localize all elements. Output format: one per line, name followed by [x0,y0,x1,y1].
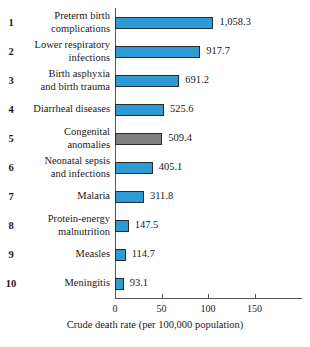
rank-number: 5 [0,124,22,153]
bar-chart: 1Preterm birthcomplications1,058.32Lower… [0,0,310,347]
category-label-line: Meningitis [64,277,110,289]
bar-track: 405.1 [115,153,310,182]
rank-number: 2 [0,37,22,66]
bar-track: 114.7 [115,240,310,269]
bar-track: 509.4 [115,124,310,153]
rank-number: 3 [0,66,22,95]
rank-number: 10 [0,269,22,298]
x-axis-tick [255,294,256,298]
bar-value-label: 147.5 [135,220,159,231]
category-label-line: and birth trauma [41,81,110,93]
x-axis-title: Crude death rate (per 100,000 population… [0,320,310,331]
chart-row: 3Birth asphyxiaand birth trauma691.2 [0,66,310,95]
category-label-line: malnutrition [58,226,110,238]
bar-value-label: 311.8 [150,191,173,202]
category-label-line: Protein-energy [48,213,110,225]
rank-number: 9 [0,240,22,269]
bar-track: 525.6 [115,95,310,124]
category-label-line: Malaria [77,190,110,202]
bar-value-label: 509.4 [168,133,192,144]
x-axis-tick [162,294,163,298]
bar [115,104,164,116]
category-label-line: infections [69,52,110,64]
x-axis-tick-label: 150 [235,304,275,314]
bar-track: 1,058.3 [115,8,310,37]
x-axis-tick-label: 50 [142,304,182,314]
x-axis-tick-label: 100 [188,304,228,314]
bar-value-label: 691.2 [185,75,209,86]
bar-value-label: 405.1 [159,162,183,173]
bar-track: 917.7 [115,37,310,66]
chart-row: 2Lower respiratoryinfections917.7 [0,37,310,66]
category-label: Diarrheal diseases [22,95,113,124]
category-label-line: Birth asphyxia [48,68,110,80]
chart-row: 1Preterm birthcomplications1,058.3 [0,8,310,37]
category-label-line: Preterm birth [54,10,110,22]
bar-track: 311.8 [115,182,310,211]
x-axis-line [115,298,302,299]
category-label: Protein-energymalnutrition [22,211,113,240]
chart-row: 7Malaria311.8 [0,182,310,211]
category-label-line: Diarrheal diseases [33,103,110,115]
chart-rows: 1Preterm birthcomplications1,058.32Lower… [0,8,310,298]
category-label: Birth asphyxiaand birth trauma [22,66,113,95]
bar-value-label: 1,058.3 [219,17,251,28]
bar [115,162,153,174]
category-label-line: complications [51,23,110,35]
chart-row: 5Congenitalanomalies509.4 [0,124,310,153]
bar-track: 691.2 [115,66,310,95]
x-axis-tick [115,294,116,298]
x-axis-tick [208,294,209,298]
category-label-line: anomalies [67,139,110,151]
category-label: Meningitis [22,269,113,298]
bar [115,17,213,29]
chart-row: 4Diarrheal diseases525.6 [0,95,310,124]
category-label-line: Congenital [64,126,110,138]
rank-number: 6 [0,153,22,182]
chart-row: 6Neonatal sepsisand infections405.1 [0,153,310,182]
chart-row: 10Meningitis93.1 [0,269,310,298]
category-label-line: and infections [51,168,110,180]
bar [115,46,200,58]
bar-value-label: 525.6 [170,104,194,115]
category-label-line: Neonatal sepsis [44,155,110,167]
category-label: Preterm birthcomplications [22,8,113,37]
category-label: Congenitalanomalies [22,124,113,153]
bar [115,75,179,87]
rank-number: 7 [0,182,22,211]
rank-number: 4 [0,95,22,124]
x-axis-tick-label: 0 [95,304,135,314]
category-label: Lower respiratoryinfections [22,37,113,66]
bar-value-label: 93.1 [130,278,148,289]
category-label: Malaria [22,182,113,211]
bar-value-label: 114.7 [132,249,155,260]
bar [115,278,124,290]
bar [115,191,144,203]
bar [115,249,126,261]
bar-track: 147.5 [115,211,310,240]
chart-row: 9Measles114.7 [0,240,310,269]
chart-row: 8Protein-energymalnutrition147.5 [0,211,310,240]
rank-number: 1 [0,8,22,37]
bar [115,133,162,145]
rank-number: 8 [0,211,22,240]
category-label-line: Lower respiratory [34,39,110,51]
bar-track: 93.1 [115,269,310,298]
category-label: Neonatal sepsisand infections [22,153,113,182]
bar [115,220,129,232]
category-label-line: Measles [76,248,110,260]
category-label: Measles [22,240,113,269]
bar-value-label: 917.7 [206,46,230,57]
